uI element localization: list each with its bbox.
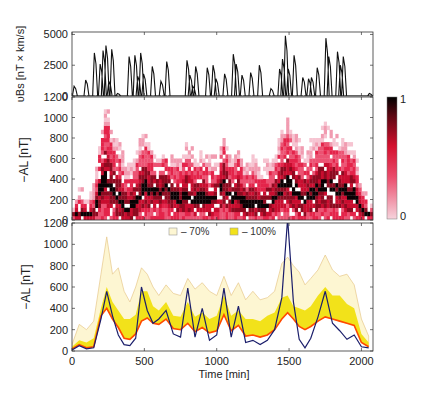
heatmap-cell [92,204,95,208]
heatmap-cell [141,163,144,167]
heatmap-cell [115,167,118,171]
heatmap-cell [350,150,353,154]
heatmap-cell [110,142,113,146]
heatmap-cell [168,179,171,183]
heatmap-cell [124,195,127,199]
heatmap-cell [277,146,280,150]
heatmap-cell [133,208,136,212]
heatmap-cell [356,159,359,163]
heatmap-cell [225,163,228,167]
heatmap-cell [130,179,133,183]
heatmap-cell [364,208,367,212]
heatmap-cell [208,171,211,175]
heatmap-cell [246,163,249,167]
heatmap-cell [356,175,359,179]
heatmap-cell [168,212,171,216]
heatmap-cell [364,191,367,195]
heatmap-cell [309,167,312,171]
heatmap-cell [176,179,179,183]
y-tick-label: 800 [50,132,68,144]
heatmap-cell [240,175,243,179]
heatmap-cell [179,200,182,204]
heatmap-cell [286,134,289,138]
heatmap-cell [173,195,176,199]
heatmap-cell [182,179,185,183]
heatmap-cell [304,179,307,183]
heatmap-cell [347,191,350,195]
heatmap-cell [107,118,110,122]
heatmap-cell [286,130,289,134]
heatmap-cell [150,175,153,179]
heatmap-cell [304,187,307,191]
heatmap-cell [176,204,179,208]
heatmap-cell [168,191,171,195]
heatmap-cell [170,175,173,179]
heatmap-cell [292,167,295,171]
heatmap-cell [228,179,231,183]
heatmap-cell [104,113,107,117]
heatmap-cell [312,195,315,199]
heatmap-cell [107,204,110,208]
heatmap-cell [225,195,228,199]
heatmap-cell [118,146,121,150]
colorbar-min-label: 0 [400,210,406,222]
heatmap-cell [139,195,142,199]
x-tick-label: 1500 [277,355,301,367]
heatmap-cell [182,175,185,179]
heatmap-cell [347,187,350,191]
heatmap-cell [156,179,159,183]
heatmap-cell [194,179,197,183]
heatmap-cell [191,212,194,216]
heatmap-cell [170,191,173,195]
heatmap-cell [318,146,321,150]
heatmap-cell [327,212,330,216]
heatmap-cell [191,175,194,179]
heatmap-cell [124,175,127,179]
heatmap-cell [223,159,226,163]
heatmap-cell [118,187,121,191]
heatmap-cell [225,183,228,187]
heatmap-cell [304,208,307,212]
heatmap-cell [249,204,252,208]
heatmap-cell [141,171,144,175]
heatmap-cell [89,195,92,199]
heatmap-cell [249,200,252,204]
heatmap-cell [327,179,330,183]
heatmap-cell [144,146,147,150]
heatmap-cell [260,208,263,212]
heatmap-cell [350,200,353,204]
heatmap-cell [347,195,350,199]
heatmap-cell [359,212,362,216]
heatmap-cell [298,171,301,175]
heatmap-cell [136,175,139,179]
heatmap-cell [318,159,321,163]
heatmap-cell [257,187,260,191]
heatmap-cell [173,212,176,216]
heatmap-cell [208,191,211,195]
heatmap-cell [280,191,283,195]
heatmap-cell [315,204,318,208]
heatmap-cell [104,150,107,154]
heatmap-cell [330,175,333,179]
heatmap-cell [263,204,266,208]
heatmap-cell [72,212,75,216]
heatmap-cell [188,195,191,199]
heatmap-cell [223,150,226,154]
heatmap-cell [98,195,101,199]
heatmap-cell [292,175,295,179]
y-tick-label: 800 [50,260,68,272]
heatmap-cell [173,171,176,175]
heatmap-cell [101,212,104,216]
heatmap-cell [272,175,275,179]
y-tick-label: 1200 [44,217,68,229]
heatmap-cell [353,212,356,216]
heatmap-cell [304,191,307,195]
heatmap-cell [228,154,231,158]
heatmap-cell [89,200,92,204]
heatmap-cell [295,134,298,138]
heatmap-cell [356,200,359,204]
heatmap-cell [162,204,165,208]
heatmap-cell [330,130,333,134]
heatmap-cell [324,134,327,138]
heatmap-cell [318,200,321,204]
